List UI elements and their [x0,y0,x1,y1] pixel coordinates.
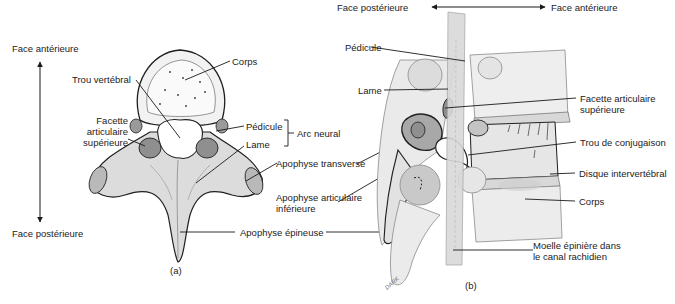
label-pedicule-a: Pédicule [246,121,282,132]
label-moelle-epiniere: Moelle épinière dans le canal rachidien [533,240,621,262]
orientation-bottom-label: Face postérieure [12,228,83,239]
label-disque-intervertebral: Disque intervertébral [579,168,667,179]
label-corps-b: Corps [579,196,604,207]
label-apophyse-articulaire-line2: inférieure [276,203,362,214]
label-facette-b-line2: supérieure [580,104,656,115]
label-apophyse-articulaire-inferieure: Apophyse articulaire inférieure [276,192,362,214]
orientation-top-label: Face antérieure [12,43,79,54]
label-facette-b-line1: Facette articulaire [580,93,656,104]
label-pedicule-b: Pédicule [345,42,381,53]
label-corps-a: Corps [232,56,257,67]
label-facette-line3: supérieure [72,137,128,148]
orientation-right-label: Face antérieure [551,2,618,13]
label-moelle-line1: Moelle épinière dans [533,240,621,251]
label-facette-articulaire-a: Facette articulaire supérieure [72,115,128,148]
label-apophyse-articulaire-line1: Apophyse articulaire [276,192,362,203]
label-apophyse-transverse: Apophyse transverse [276,158,365,169]
label-facette-line2: articulaire [72,126,128,137]
label-moelle-line2: le canal rachidien [533,251,621,262]
caption-b: (b) [465,280,477,291]
label-trou-vertebral: Trou vertébral [72,74,131,85]
label-trou-conjugaison: Trou de conjugaison [580,137,666,148]
label-apophyse-epineuse: Apophyse épineuse [240,227,323,238]
label-lame-b: Lame [358,85,382,96]
caption-a: (a) [170,265,182,276]
label-facette-articulaire-b: Facette articulaire supérieure [580,93,656,115]
label-arc-neural: Arc neural [297,128,340,139]
label-lame-a: Lame [246,139,270,150]
orientation-left-label: Face postérieure [337,2,408,13]
label-facette-line1: Facette [72,115,128,126]
